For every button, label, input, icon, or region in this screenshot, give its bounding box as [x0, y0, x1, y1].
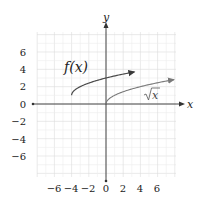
- svg-text:6: 6: [154, 183, 160, 194]
- svg-text:4: 4: [20, 64, 26, 75]
- svg-text:2: 2: [20, 81, 26, 92]
- svg-text:−2: −2: [11, 116, 26, 127]
- svg-text:2: 2: [120, 183, 126, 194]
- grid: [37, 32, 176, 177]
- graph: y x 6 4 2 0 −2 −4 −6 −6 −4 −2 0 2 4 6 f(…: [0, 0, 201, 202]
- y-tick-labels: 6 4 2 0 −2 −4 −6: [11, 47, 26, 162]
- x-axis-left-dot: [32, 103, 35, 106]
- svg-text:6: 6: [20, 47, 26, 58]
- curve-sqrt-label: x: [144, 88, 160, 102]
- svg-text:0: 0: [20, 99, 26, 110]
- svg-text:4: 4: [137, 183, 143, 194]
- svg-text:0: 0: [103, 183, 109, 194]
- y-axis-label: y: [102, 11, 110, 24]
- svg-text:−4: −4: [64, 183, 79, 194]
- svg-text:−4: −4: [11, 134, 26, 145]
- x-axis-label: x: [187, 98, 194, 111]
- svg-text:−6: −6: [47, 183, 62, 194]
- axes: [33, 26, 181, 181]
- svg-text:−6: −6: [11, 151, 26, 162]
- y-axis-bottom-dot: [105, 180, 108, 183]
- curve-sqrt: [106, 80, 174, 104]
- curve-f-label: f(x): [63, 59, 88, 75]
- x-axis-arrow-icon: [179, 102, 185, 107]
- svg-text:x: x: [152, 89, 159, 102]
- curve-f: [72, 72, 135, 95]
- svg-text:−2: −2: [81, 183, 96, 194]
- x-tick-labels: −6 −4 −2 0 2 4 6: [47, 183, 161, 194]
